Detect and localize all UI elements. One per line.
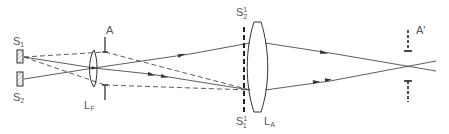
label-la: LA — [264, 115, 275, 128]
optical-diagram: S1 S2 LF A S12 S11 LA A' — [0, 0, 449, 134]
ray-arrows — [148, 50, 332, 84]
aperture-a — [102, 37, 108, 100]
source-s2 — [17, 72, 23, 86]
lens-la — [247, 22, 268, 112]
solid-rays — [24, 43, 436, 90]
label-a: A — [106, 24, 114, 36]
source-s1 — [17, 50, 23, 63]
label-s1: S1 — [13, 35, 24, 48]
label-lf: LF — [84, 99, 94, 112]
label-s2-prime: S12 — [236, 6, 247, 20]
label-s2: S2 — [13, 91, 24, 104]
label-a-prime: A' — [416, 24, 425, 36]
label-s1-prime: S11 — [236, 115, 247, 129]
